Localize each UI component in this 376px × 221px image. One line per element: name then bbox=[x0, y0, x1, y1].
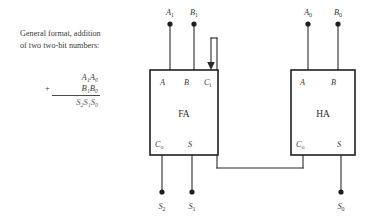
half-adder-pin-b: B bbox=[331, 78, 336, 87]
full-adder-pin-b: B bbox=[184, 78, 189, 87]
terminal-dot-s0 bbox=[338, 189, 343, 194]
terminal-label-a1: A1 bbox=[165, 8, 174, 18]
carry-in-arrowhead bbox=[207, 62, 215, 70]
terminal-label-s1: S1 bbox=[188, 202, 195, 212]
terminal-label-b1: B1 bbox=[190, 8, 198, 18]
half-adder-name: HA bbox=[316, 109, 330, 119]
half-adder-pin-s: S bbox=[337, 140, 341, 149]
terminal-dot-b1 bbox=[191, 21, 196, 26]
terminal-dot-s1 bbox=[189, 189, 194, 194]
full-adder-pin-a: A bbox=[159, 78, 166, 87]
half-adder-pin-a: A bbox=[299, 78, 306, 87]
terminal-label-s2: S2 bbox=[158, 202, 165, 212]
full-adder-pin-s: S bbox=[188, 140, 192, 149]
terminal-dot-a0 bbox=[305, 21, 310, 26]
full-adder-name: FA bbox=[178, 109, 190, 119]
adder-schematic-figure: General format, addition of two two-bit … bbox=[0, 0, 376, 221]
terminal-label-a0: A0 bbox=[303, 8, 312, 18]
terminal-label-b0: B0 bbox=[334, 8, 342, 18]
terminal-dot-b0 bbox=[335, 21, 340, 26]
terminal-label-s0: S0 bbox=[337, 202, 344, 212]
terminal-dot-s2 bbox=[159, 189, 164, 194]
terminal-dot-a1 bbox=[167, 21, 172, 26]
circuit-schematic: FA A B Ci Co S HA A B Co S A1 B1 A0 B0 S… bbox=[0, 0, 376, 221]
